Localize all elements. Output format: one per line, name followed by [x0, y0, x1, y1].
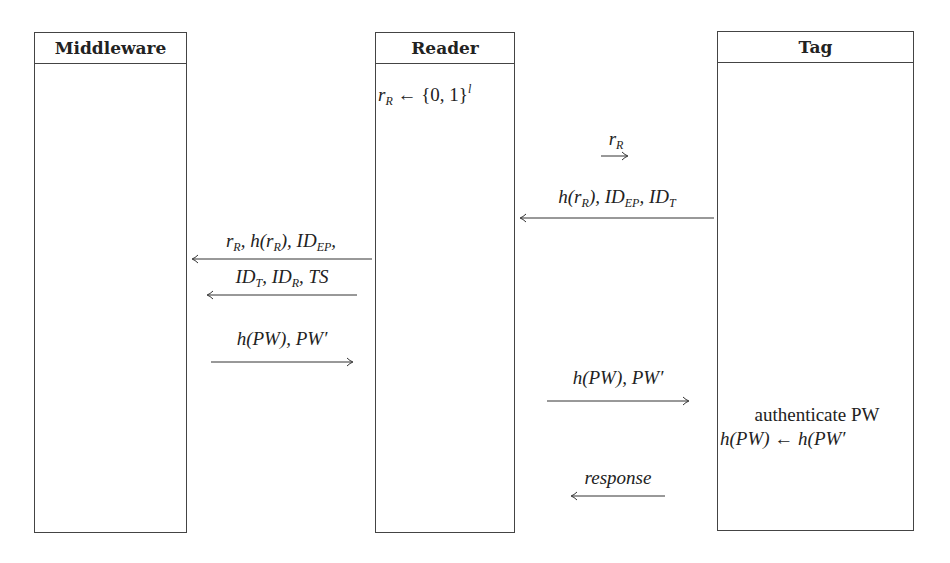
- m3b-p4: , TS: [299, 266, 329, 287]
- tag-update-step: h(PW) ← h(PW′: [720, 428, 914, 450]
- m2-p0: h(r: [558, 186, 581, 207]
- m3b-p0: ID: [235, 266, 255, 287]
- m2-p1: R: [582, 196, 589, 210]
- message-label-rR: rR: [601, 128, 631, 150]
- message-label-m4: h(PW), PW′: [205, 328, 359, 350]
- lane-reader: Reader: [375, 32, 515, 533]
- m3b-p3: R: [292, 276, 299, 290]
- arrow-left-response: [571, 491, 665, 501]
- nonce-op: ← {0, 1}: [393, 84, 468, 105]
- m3b-p2: , ID: [262, 266, 292, 287]
- m3a-p6: ,: [331, 230, 336, 251]
- arrow-left-m3a: [192, 254, 372, 264]
- m3a-p1: R: [233, 240, 240, 254]
- m1-var: r: [609, 128, 616, 149]
- nonce-sup: l: [468, 82, 471, 96]
- m2-p3: EP: [625, 196, 640, 210]
- lane-tag: Tag: [717, 31, 914, 531]
- nonce-sub: R: [385, 94, 392, 108]
- message-label-m2: h(rR), IDEP, IDT: [518, 186, 716, 208]
- lane-title-tag: Tag: [718, 32, 913, 63]
- m3a-p5: EP: [317, 240, 332, 254]
- m2-p2: ), ID: [589, 186, 625, 207]
- message-label-m3a: rR, h(rR), IDEP,: [189, 230, 373, 252]
- lane-middleware: Middleware: [34, 32, 187, 533]
- message-label-m3b: IDT, IDR, TS: [200, 266, 364, 288]
- lane-title-reader: Reader: [376, 33, 514, 64]
- message-label-response: response: [568, 467, 668, 489]
- tag-auth-step: authenticate PW: [720, 404, 914, 426]
- arrow-left-m2: [520, 213, 714, 223]
- reader-nonce-step: rR ← {0, 1}l: [378, 84, 471, 106]
- message-label-m5: h(PW), PW′: [541, 367, 695, 389]
- arrow-left-m3b: [207, 290, 357, 300]
- m3a-p4: ), ID: [281, 230, 317, 251]
- arrow-right-m5: [547, 396, 689, 406]
- lane-title-middleware: Middleware: [35, 33, 186, 64]
- arrow-right-m4: [211, 357, 353, 367]
- m3a-p3: R: [273, 240, 280, 254]
- m3a-p2: , h(r: [241, 230, 274, 251]
- m2-p5: T: [669, 196, 676, 210]
- m1-sub: R: [616, 138, 623, 152]
- m2-p4: , ID: [639, 186, 669, 207]
- arrow-right-m1: [601, 151, 628, 161]
